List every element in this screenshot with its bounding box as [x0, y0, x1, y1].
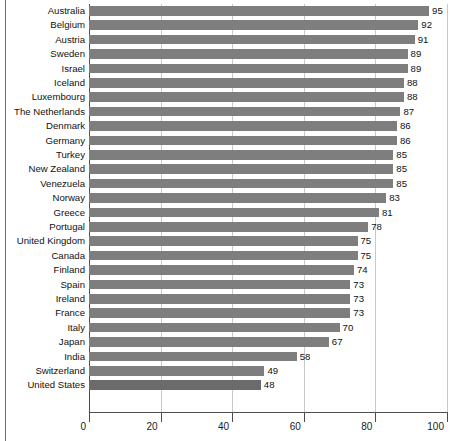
category-label: Belgium [50, 18, 85, 32]
bar-row: Iceland88 [0, 76, 453, 90]
category-label: Venezuela [40, 177, 85, 191]
axis-tick [375, 412, 376, 422]
axis-tick [232, 412, 233, 422]
bar-row: Australia95 [0, 4, 453, 18]
bar [89, 222, 368, 232]
category-label: United Kingdom [17, 234, 85, 248]
bar [89, 107, 400, 117]
category-label: The Netherlands [14, 105, 85, 119]
axis-tick-label: 100 [427, 421, 444, 432]
bar [89, 35, 415, 45]
bar-row: New Zealand85 [0, 162, 453, 176]
bar-row: Spain73 [0, 278, 453, 292]
bar-value-label: 85 [396, 177, 407, 191]
bar-row: Japan67 [0, 335, 453, 349]
bar-value-label: 92 [421, 18, 432, 32]
bar-row: India58 [0, 350, 453, 364]
category-label: Iceland [54, 76, 85, 90]
bar-row: Norway83 [0, 191, 453, 205]
bar [89, 20, 418, 30]
category-label: Luxembourg [32, 90, 85, 104]
bar [89, 193, 386, 203]
bar-value-label: 75 [361, 234, 372, 248]
bar-value-label: 88 [407, 76, 418, 90]
category-label: Finland [54, 263, 85, 277]
bar-value-label: 95 [432, 4, 443, 18]
bar-value-label: 70 [343, 321, 354, 335]
category-label: Sweden [50, 47, 85, 61]
bar-value-label: 87 [403, 105, 414, 119]
category-label: Denmark [46, 119, 85, 133]
category-label: India [64, 350, 85, 364]
bar [89, 236, 358, 246]
bar-value-label: 67 [332, 335, 343, 349]
bar [89, 136, 397, 146]
axis-tick [304, 412, 305, 422]
bar [89, 323, 340, 333]
bar-row: Israel89 [0, 62, 453, 76]
category-label: Portugal [49, 220, 85, 234]
bar-row: Switzerland49 [0, 364, 453, 378]
bar [89, 352, 297, 362]
bar-row: Venezuela85 [0, 177, 453, 191]
bar [89, 121, 397, 131]
axis-tick [89, 412, 90, 422]
bar-row: Belgium92 [0, 18, 453, 32]
category-label: Israel [62, 62, 85, 76]
axis-tick-label: 40 [218, 421, 229, 432]
bar-row: Austria91 [0, 33, 453, 47]
bar-value-label: 81 [382, 206, 393, 220]
axis-tick-label: 60 [290, 421, 301, 432]
bar [89, 251, 358, 261]
axis-tick [447, 412, 448, 422]
bar-row: Turkey85 [0, 148, 453, 162]
bar [89, 179, 393, 189]
bar-row: Luxembourg88 [0, 90, 453, 104]
axis-tick-label: 20 [146, 421, 157, 432]
bar [89, 380, 261, 390]
bar-value-label: 73 [353, 306, 364, 320]
bar-value-label: 73 [353, 292, 364, 306]
bar-row: Portugal78 [0, 220, 453, 234]
bar-value-label: 78 [371, 220, 382, 234]
category-label: Italy [67, 321, 85, 335]
bar-row: France73 [0, 306, 453, 320]
bar-value-label: 85 [396, 162, 407, 176]
value-axis-line [89, 412, 447, 413]
bar-value-label: 88 [407, 90, 418, 104]
bar-value-label: 58 [300, 350, 311, 364]
category-label: Ireland [56, 292, 85, 306]
category-label: New Zealand [28, 162, 85, 176]
axis-tick-label: 80 [361, 421, 372, 432]
bar [89, 78, 404, 88]
bar [89, 366, 264, 376]
bar-row: Denmark86 [0, 119, 453, 133]
bar-chart: Australia95Belgium92Austria91Sweden89Isr… [0, 0, 453, 441]
axis-tick [161, 412, 162, 422]
bar-row: Ireland73 [0, 292, 453, 306]
axis-tick-label: 0 [80, 421, 86, 432]
category-label: Germany [46, 134, 85, 148]
bar-value-label: 89 [411, 47, 422, 61]
bar-value-label: 74 [357, 263, 368, 277]
bar-value-label: 83 [389, 191, 400, 205]
bar [89, 337, 329, 347]
bar [89, 265, 354, 275]
bar-value-label: 75 [361, 249, 372, 263]
category-label: Switzerland [35, 364, 85, 378]
category-label: Greece [54, 206, 85, 220]
bar-row: Germany86 [0, 134, 453, 148]
bar-value-label: 86 [400, 134, 411, 148]
bar [89, 150, 393, 160]
bar [89, 164, 393, 174]
bar [89, 294, 350, 304]
category-label: Australia [48, 4, 85, 18]
bar [89, 49, 408, 59]
category-label: Turkey [56, 148, 85, 162]
category-label: Spain [60, 278, 85, 292]
bar-value-label: 85 [396, 148, 407, 162]
category-label: Austria [55, 33, 85, 47]
bar [89, 208, 379, 218]
bar-row: Sweden89 [0, 47, 453, 61]
bar-row: Canada75 [0, 249, 453, 263]
